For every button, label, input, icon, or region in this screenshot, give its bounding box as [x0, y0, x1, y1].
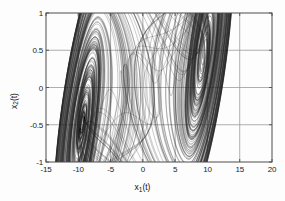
y-axis-title-tail: (t) [9, 93, 19, 101]
x-axis-title-tail: (t) [142, 182, 150, 192]
x-tick-label: 20 [268, 165, 277, 174]
x-tick-label: -5 [107, 165, 114, 174]
x-tick-label: 0 [141, 165, 145, 174]
figure-canvas: -15-10-505101520 -1-0.500.51 x1(t) x2(t) [0, 0, 285, 201]
y-tick-label: 1 [39, 9, 43, 18]
x-tick-label: -10 [73, 165, 84, 174]
y-axis-title-subscript: 2 [12, 101, 19, 105]
x-tick-label: 5 [173, 165, 177, 174]
y-tick-label: -1 [36, 158, 43, 167]
y-tick-label: -0.5 [30, 120, 43, 129]
x-tick-label: 10 [203, 165, 212, 174]
y-axis-title: x2(t) [9, 93, 20, 109]
x-tick-label: 15 [235, 165, 244, 174]
y-tick-label: 0.5 [32, 46, 43, 55]
x-axis-title: x1(t) [135, 182, 151, 193]
y-tick-label: 0 [39, 83, 43, 92]
